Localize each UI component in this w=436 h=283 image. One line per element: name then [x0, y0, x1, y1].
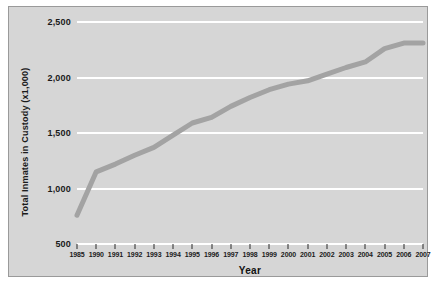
y-axis-tick-label: 1,000 — [47, 184, 71, 194]
x-axis-tick-label: 2004 — [358, 251, 373, 258]
x-axis-tick-label: 1994 — [166, 251, 181, 258]
y-axis-tick-label: 1,500 — [47, 128, 71, 138]
x-axis-tick-mark — [211, 244, 212, 249]
x-axis-ticks: 1985199019911992199319941995199619971998… — [77, 244, 423, 256]
x-axis-tick-mark — [403, 244, 404, 249]
x-axis-tick-mark — [153, 244, 154, 249]
y-axis-tick-label: 2,500 — [47, 17, 71, 27]
x-axis-tick-mark — [269, 244, 270, 249]
x-axis-tick-mark — [134, 244, 135, 249]
series-polyline — [77, 43, 423, 215]
chart-container: Total Inmates in Custody (x1,000) 5001,0… — [0, 0, 436, 283]
x-axis-tick-mark — [250, 244, 251, 249]
x-axis-tick-mark — [77, 244, 78, 249]
x-axis-tick-label: 1992 — [127, 251, 142, 258]
y-axis-tick-label: 2,000 — [47, 73, 71, 83]
x-axis-tick-mark — [288, 244, 289, 249]
x-axis-tick-mark — [365, 244, 366, 249]
x-axis-tick-label: 1996 — [204, 251, 219, 258]
x-axis-tick-mark — [307, 244, 308, 249]
x-axis-tick-mark — [230, 244, 231, 249]
x-axis-tick-label: 2003 — [339, 251, 354, 258]
y-axis-tick-label: 500 — [55, 239, 71, 249]
x-axis-tick-label: 1998 — [242, 251, 257, 258]
x-axis-tick-label: 2007 — [415, 251, 430, 258]
x-axis-tick-label: 1990 — [89, 251, 104, 258]
x-axis-tick-mark — [115, 244, 116, 249]
x-axis-tick-label: 2006 — [396, 251, 411, 258]
line-series — [77, 22, 423, 244]
x-axis-tick-mark — [96, 244, 97, 249]
x-axis-tick-mark — [423, 244, 424, 249]
x-axis-tick-label: 2000 — [281, 251, 296, 258]
x-axis-tick-label: 1997 — [223, 251, 238, 258]
x-axis-tick-label: 2002 — [319, 251, 334, 258]
x-axis-tick-label: 1985 — [69, 251, 84, 258]
x-axis-tick-label: 2001 — [300, 251, 315, 258]
x-axis-tick-label: 1999 — [262, 251, 277, 258]
x-axis-tick-mark — [384, 244, 385, 249]
chart-frame: Total Inmates in Custody (x1,000) 5001,0… — [8, 6, 428, 277]
x-axis-tick-mark — [346, 244, 347, 249]
x-axis-tick-mark — [173, 244, 174, 249]
plot-area: 5001,0001,5002,0002,500 — [77, 22, 423, 244]
x-axis-tick-label: 1995 — [185, 251, 200, 258]
x-axis-tick-label: 1991 — [108, 251, 123, 258]
x-axis-tick-label: 1993 — [146, 251, 161, 258]
x-axis-title: Year — [77, 265, 423, 276]
x-axis-tick-mark — [192, 244, 193, 249]
y-axis-title: Total Inmates in Custody (x1,000) — [20, 67, 30, 216]
x-axis-tick-label: 2005 — [377, 251, 392, 258]
x-axis-tick-mark — [326, 244, 327, 249]
